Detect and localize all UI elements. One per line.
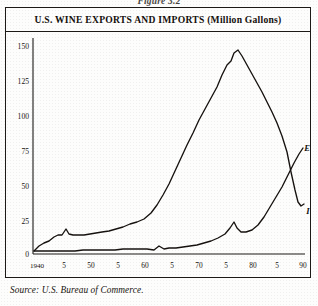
- x-tick-labels: 1940 5 50 5 60 5 70 5 80 5 90: [30, 261, 307, 270]
- y-tick-100: 100: [18, 112, 30, 121]
- chart-title: U.S. WINE EXPORTS AND IMPORTS (Million G…: [34, 14, 281, 25]
- x-tick-1985: 5: [275, 261, 279, 270]
- x-tick-1940: 1940: [30, 262, 45, 270]
- x-tick-1955: 5: [116, 261, 120, 270]
- x-tick-1975: 5: [224, 261, 228, 270]
- y-tick-75: 75: [21, 147, 29, 156]
- y-tick-150: 150: [18, 42, 30, 51]
- figure-page: Figure 3.2 U.S. WINE EXPORTS AND IMPORTS…: [0, 0, 318, 306]
- x-tick-1970: 70: [195, 261, 203, 270]
- y-tick-labels: 150 125 100 75 50 25 0: [18, 42, 30, 259]
- line-chart-svg: 150 125 100 75 50 25 0 I E 1940: [6, 32, 312, 278]
- x-tick-1965: 5: [170, 261, 174, 270]
- plot-area: 150 125 100 75 50 25 0 I E 1940: [6, 32, 310, 278]
- figure-caption: Figure 3.2: [0, 0, 318, 7]
- source-note: Source: U.S. Bureau of Commerce.: [10, 285, 144, 295]
- x-tick-1950: 50: [87, 261, 95, 270]
- x-tick-1990: 90: [299, 261, 307, 270]
- y-tick-50: 50: [21, 182, 29, 191]
- exports-series-label: E: [303, 143, 310, 153]
- y-tick-0: 0: [25, 250, 29, 259]
- x-tick-1960: 60: [141, 261, 149, 270]
- imports-line: [34, 50, 304, 251]
- x-tick-1980: 80: [249, 261, 257, 270]
- y-tick-25: 25: [21, 217, 29, 226]
- figure-frame: U.S. WINE EXPORTS AND IMPORTS (Million G…: [5, 7, 311, 278]
- chart-title-band: U.S. WINE EXPORTS AND IMPORTS (Million G…: [6, 8, 310, 32]
- y-tick-125: 125: [18, 77, 30, 86]
- imports-series-label: I: [305, 206, 310, 216]
- x-tick-1945: 5: [62, 261, 66, 270]
